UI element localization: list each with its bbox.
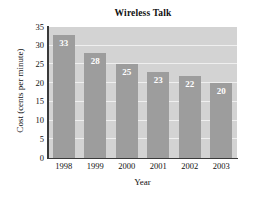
bar-value-label: 33 [53, 38, 75, 48]
bar-value-label: 23 [147, 75, 169, 85]
bar: 20 [210, 83, 232, 158]
y-tick-label: 35 [28, 23, 44, 32]
x-tick-label: 2002 [174, 161, 206, 172]
gridline [48, 101, 237, 102]
y-axis-tick-labels: 05101520253035 [26, 0, 44, 197]
gridline [48, 138, 237, 139]
y-tick-label: 20 [28, 79, 44, 88]
bar: 23 [147, 72, 169, 158]
y-axis-title: Cost (cents per minute) [15, 21, 26, 161]
bar-value-label: 25 [116, 67, 138, 77]
gridline [48, 63, 237, 64]
x-tick-label: 2001 [143, 161, 175, 172]
x-tick-label: 2003 [206, 161, 238, 172]
y-tick-label: 30 [28, 41, 44, 50]
y-tick-label: 5 [28, 135, 44, 144]
x-axis-title: Year [48, 177, 237, 188]
y-axis-line [47, 26, 49, 159]
bar: 28 [84, 53, 106, 158]
y-tick-label: 10 [28, 116, 44, 125]
bar-value-label: 22 [179, 79, 201, 89]
gridline [48, 120, 237, 121]
plot-area: 332825232220 [48, 27, 237, 158]
bar-value-label: 20 [210, 86, 232, 96]
x-axis-tick-labels: 199819992000200120022003 [48, 161, 237, 175]
gridline [48, 45, 237, 46]
y-tick-label: 15 [28, 97, 44, 106]
bar-chart-figure: Wireless Talk 05101520253035 33282523222… [0, 0, 260, 197]
bar: 33 [53, 35, 75, 159]
bar-value-label: 28 [84, 56, 106, 66]
y-tick-label: 25 [28, 60, 44, 69]
gridline [48, 82, 237, 83]
y-tick-label: 0 [28, 154, 44, 163]
x-tick-label: 1998 [48, 161, 80, 172]
x-tick-label: 1999 [80, 161, 112, 172]
x-tick-label: 2000 [111, 161, 143, 172]
bar: 22 [179, 76, 201, 158]
bar: 25 [116, 64, 138, 158]
chart-title: Wireless Talk [48, 7, 238, 19]
x-axis-line [47, 158, 238, 160]
